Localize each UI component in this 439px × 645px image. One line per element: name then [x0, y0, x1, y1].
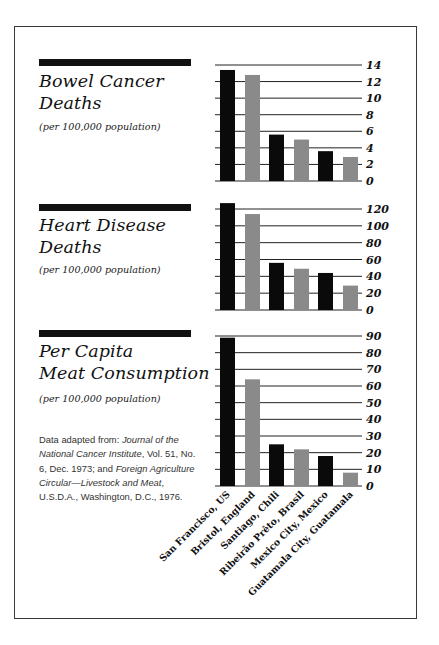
y-tick-label: 80	[366, 347, 382, 360]
bar	[269, 263, 284, 310]
bar-charts: 0246810121402040608010012001020304050607…	[0, 0, 439, 645]
bar	[294, 269, 309, 310]
y-tick-label: 0	[366, 304, 374, 317]
y-tick-label: 70	[366, 363, 382, 376]
y-tick-label: 6	[366, 125, 374, 138]
y-tick-label: 100	[366, 220, 389, 233]
y-tick-label: 20	[365, 287, 382, 300]
bar	[294, 449, 309, 486]
y-tick-label: 0	[366, 175, 374, 188]
bar	[318, 151, 333, 181]
y-tick-label: 0	[366, 480, 374, 493]
bar	[245, 75, 260, 181]
y-tick-label: 90	[366, 330, 382, 343]
meat-consumption-chart: 0102030405060708090San Francisco, USBris…	[157, 330, 382, 598]
bar	[220, 70, 235, 181]
bar	[220, 338, 235, 486]
bar	[294, 140, 309, 181]
y-tick-label: 40	[366, 270, 382, 283]
bar	[343, 157, 358, 181]
bar	[343, 473, 358, 486]
y-tick-label: 10	[366, 92, 382, 105]
heart-disease-chart: 020406080100120	[215, 203, 389, 317]
y-tick-label: 2	[365, 158, 374, 171]
bar	[269, 444, 284, 486]
y-tick-label: 10	[366, 463, 382, 476]
bar	[245, 379, 260, 486]
bar	[343, 286, 358, 310]
y-tick-label: 50	[366, 397, 382, 410]
bar	[269, 135, 284, 181]
y-tick-label: 80	[366, 237, 382, 250]
bar	[318, 273, 333, 310]
y-tick-label: 60	[366, 380, 382, 393]
bowel-cancer-chart: 02468101214	[215, 59, 382, 188]
y-tick-label: 120	[366, 203, 389, 216]
y-tick-label: 8	[366, 109, 374, 122]
y-tick-label: 30	[366, 430, 382, 443]
y-tick-label: 14	[366, 59, 381, 72]
y-tick-label: 12	[366, 76, 382, 89]
bar	[245, 214, 260, 310]
bar	[318, 456, 333, 486]
y-tick-label: 40	[366, 413, 382, 426]
y-tick-label: 60	[366, 254, 382, 267]
y-tick-label: 4	[366, 142, 374, 155]
y-tick-label: 20	[365, 447, 382, 460]
bar	[220, 203, 235, 310]
